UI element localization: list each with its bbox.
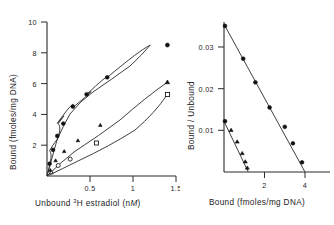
left-yticklabel-10: 10 bbox=[28, 18, 37, 27]
left-curve-high-affinity-smooth bbox=[47, 45, 150, 176]
left-x-axis-label-italic: M bbox=[130, 199, 137, 208]
data-point bbox=[240, 151, 244, 154]
right-x-axis-label: Bound (fmoles/mg DNA) bbox=[209, 198, 305, 207]
data-point bbox=[235, 140, 239, 143]
data-point bbox=[223, 119, 227, 123]
left-x-axis-label-post: H estradiol (n bbox=[77, 199, 131, 208]
right-xticklabel-4: 4 bbox=[303, 181, 307, 190]
left-xticklabel-05: 0.5 bbox=[84, 184, 95, 193]
left-x-axis-label-pre: Unbound bbox=[35, 199, 73, 208]
left-yticklabel-2: 2 bbox=[33, 141, 37, 150]
left-yticklabel-4: 4 bbox=[33, 110, 37, 119]
panel-saturation-binding: Bound (fmoles/mg DNA) 10 8 6 4 2 0.5 1 1… bbox=[0, 0, 180, 225]
panel-scatchard: Bound / Unbound 0.03 0.02 0.01 2 4 Bound… bbox=[180, 0, 334, 225]
data-point bbox=[229, 128, 233, 131]
left-xticklabel-15: 1.5 bbox=[170, 184, 180, 193]
left-curve-high-affinity bbox=[47, 45, 150, 176]
data-point bbox=[254, 80, 258, 84]
right-xticklabel-2: 2 bbox=[262, 181, 266, 190]
data-point bbox=[68, 157, 72, 161]
data-point bbox=[55, 134, 59, 138]
right-yticklabel-002: 0.02 bbox=[198, 85, 214, 94]
scatchard-plot-svg: Bound / Unbound 0.03 0.02 0.01 2 4 Bound… bbox=[180, 0, 334, 225]
right-yticklabel-003: 0.03 bbox=[198, 43, 214, 52]
data-point bbox=[94, 141, 98, 145]
data-point bbox=[241, 57, 245, 61]
left-curve-intermediate bbox=[47, 82, 167, 176]
data-point bbox=[223, 24, 227, 28]
left-x-axis-label-end: ) bbox=[138, 199, 141, 208]
data-point bbox=[48, 162, 52, 166]
data-point bbox=[268, 106, 272, 110]
data-point bbox=[165, 43, 169, 47]
right-regression-line-steep-slope bbox=[224, 121, 248, 172]
data-point bbox=[105, 75, 109, 79]
data-point bbox=[165, 80, 169, 84]
saturation-plot-svg: Bound (fmoles/mg DNA) 10 8 6 4 2 0.5 1 1… bbox=[0, 0, 180, 225]
left-xticklabel-1: 1 bbox=[131, 184, 135, 193]
left-y-axis-label: Bound (fmoles/mg DNA) bbox=[9, 74, 18, 170]
data-point bbox=[300, 160, 304, 164]
data-point bbox=[54, 159, 58, 162]
data-point bbox=[76, 139, 80, 142]
data-point bbox=[62, 150, 66, 153]
data-point bbox=[71, 105, 75, 109]
data-point bbox=[291, 141, 295, 145]
left-x-axis-label: Unbound 3H estradiol (nM) bbox=[35, 198, 141, 208]
data-point bbox=[283, 125, 287, 129]
left-yticklabel-8: 8 bbox=[33, 49, 37, 58]
right-regression-line-low-slope bbox=[224, 24, 305, 172]
data-point bbox=[56, 164, 60, 168]
data-point bbox=[51, 148, 55, 152]
data-point bbox=[165, 92, 169, 96]
left-yticklabel-6: 6 bbox=[33, 80, 37, 89]
data-point bbox=[61, 122, 65, 126]
right-y-axis-label: Bound / Unbound bbox=[187, 81, 196, 150]
left-curve-low-affinity bbox=[47, 94, 167, 176]
right-yticklabel-001: 0.01 bbox=[198, 126, 214, 135]
scatchard-binding-figure: Bound (fmoles/mg DNA) 10 8 6 4 2 0.5 1 1… bbox=[0, 0, 334, 225]
data-point bbox=[85, 92, 89, 96]
data-point bbox=[243, 160, 247, 163]
data-point bbox=[99, 123, 103, 126]
